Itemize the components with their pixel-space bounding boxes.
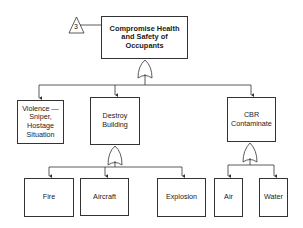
event-water: Water (259, 178, 288, 217)
event-air: Air (214, 178, 243, 217)
transfer-ref-label: 3 (74, 23, 78, 30)
event-aircraft: Aircraft (80, 178, 129, 216)
root-event-box: Compromise Health and Safety of Occupant… (101, 16, 188, 59)
event-violence: Violence — Sniper, Hostage Situation (17, 100, 64, 144)
event-fire: Fire (24, 178, 74, 217)
event-explosion: Explosion (157, 178, 206, 217)
event-destroy-building: Destroy Building (90, 97, 140, 145)
event-cbr-contaminate: CBR Contaminate (227, 97, 276, 142)
